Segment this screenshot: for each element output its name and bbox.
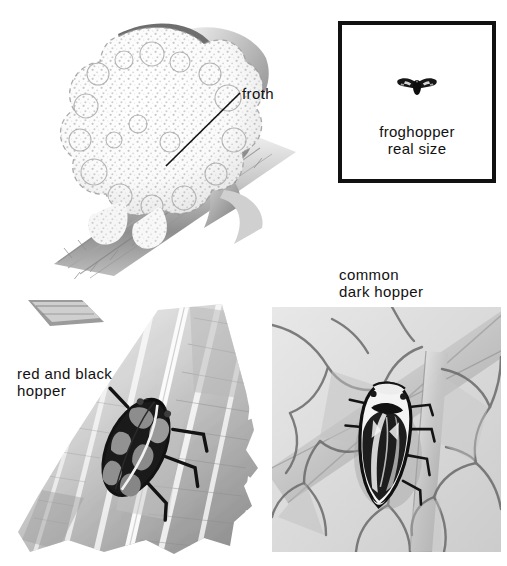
real-size-caption: froghopper real size [342, 123, 492, 157]
common-dark-hopper-label: common dark hopper [339, 266, 423, 300]
froth-mass-illustration [28, 14, 318, 279]
froghopper-real-size-box: froghopper real size [338, 21, 496, 183]
red-and-black-hopper-label: red and black hopper [17, 365, 112, 399]
illustration-plate: froth froghopper real size [0, 0, 507, 566]
common-dark-hopper-illustration [272, 307, 501, 552]
froth-label: froth [242, 85, 274, 102]
froghopper-silhouette-icon [396, 77, 438, 97]
stem-fragment [28, 300, 104, 326]
red-and-black-hopper-illustration [8, 300, 274, 562]
